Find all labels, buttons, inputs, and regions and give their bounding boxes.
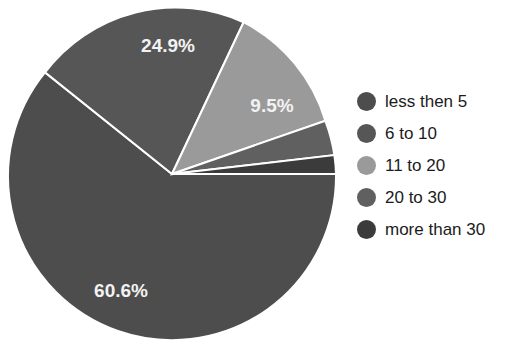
legend-swatch-circle-icon [357, 188, 376, 207]
pie-chart-svg: 24.9% 9.5% 60.6% [0, 0, 350, 347]
legend-item-label: 20 to 30 [385, 189, 446, 206]
pie-label-less-then-5: 60.6% [94, 280, 148, 301]
legend-swatch-circle-icon [357, 124, 376, 143]
legend-item-6-to-10[interactable]: 6 to 10 [357, 117, 523, 149]
legend-swatch-circle-icon [357, 220, 376, 239]
legend-item-label: more than 30 [385, 221, 485, 238]
legend-item-label: 11 to 20 [385, 157, 445, 174]
pie-chart-figure: 24.9% 9.5% 60.6% less then 5 6 to 10 11 … [0, 0, 523, 347]
legend-item-11-to-20[interactable]: 11 to 20 [357, 149, 523, 181]
legend-swatch-circle-icon [357, 156, 376, 175]
pie-slices [8, 7, 336, 340]
pie-label-11-to-20: 9.5% [250, 95, 293, 116]
legend-item-20-to-30[interactable]: 20 to 30 [357, 181, 523, 213]
pie-label-6-to-10: 24.9% [141, 35, 195, 56]
chart-legend: less then 5 6 to 10 11 to 20 20 to 30 mo… [357, 85, 523, 245]
pie-chart-area: 24.9% 9.5% 60.6% [0, 0, 350, 347]
legend-item-label: less then 5 [385, 93, 467, 110]
legend-item-more-than-30[interactable]: more than 30 [357, 213, 523, 245]
legend-item-less-then-5[interactable]: less then 5 [357, 85, 523, 117]
legend-item-label: 6 to 10 [385, 125, 437, 142]
legend-swatch-circle-icon [357, 92, 376, 111]
